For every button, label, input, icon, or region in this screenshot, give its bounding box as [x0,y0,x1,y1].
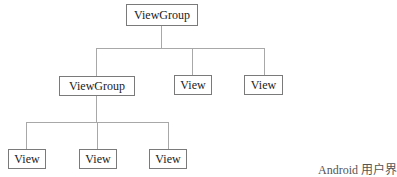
figure-caption: Android 用户界 [318,160,397,177]
connector-to-child-view-1 [192,48,193,75]
connector-group-down [96,95,97,122]
child-view-node-2: View [244,75,283,95]
leaf-view-node-3: View [149,149,187,169]
child-viewgroup-node: ViewGroup [59,76,135,96]
view-hierarchy-diagram: ViewGroup ViewGroup View View View View … [0,0,397,177]
connector-root-down [161,25,162,48]
leaf-view-node-1: View [8,149,46,169]
connector-to-leaf-1 [26,122,27,149]
connector-level1-horizontal [96,48,265,49]
root-viewgroup-node: ViewGroup [126,4,198,26]
connector-to-leaf-2 [97,122,98,149]
connector-to-child-group [96,48,97,76]
connector-to-leaf-3 [168,122,169,149]
leaf-view-node-2: View [79,149,117,169]
connector-to-child-view-2 [264,48,265,75]
child-view-node-1: View [174,75,212,95]
